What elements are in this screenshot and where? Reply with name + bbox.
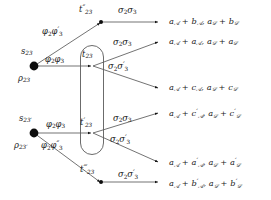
output-row-6: a𝒜 + b′𝒜, a𝒟 + b′𝒟 — [169, 178, 241, 189]
node-label-t23-double-prime: t″23 — [79, 4, 92, 15]
output-row-1: a𝒜 + b𝒜, a𝒟 + b𝒟 — [169, 17, 238, 27]
edge-label-phi2-phi3-bottom: φ2φ3 — [46, 120, 65, 130]
sigma-label-6: σ2σ′3 — [118, 169, 138, 180]
source-top-label-above: s23 — [21, 47, 33, 57]
output-row-4: a𝒜 + c′𝒜, a𝒟 + c′𝒟 — [169, 108, 240, 119]
sigma-label-5: σ2σ′3 — [110, 134, 130, 145]
source-bottom-label-above: s23′ — [19, 114, 32, 124]
sigma-label-4: σ2σ3 — [113, 114, 132, 124]
pill-group — [81, 46, 104, 155]
edge-label-phi2-phi3-prime: φ2φ′3 — [42, 26, 63, 37]
output-row-5: a𝒜 + a′𝒜, a𝒟 + a′𝒟 — [169, 157, 241, 168]
output-row-2: a𝒜 + a𝒜, a𝒟 + a𝒟 — [169, 37, 238, 47]
node-source-top — [30, 62, 39, 71]
sigma-label-3: σ2σ′3 — [108, 61, 128, 72]
node-label-t23-prime: t′23 — [80, 117, 92, 128]
diagram-canvas: s23 ρ23 s23′ ρ23′ t″23 t23 t′23 t‴23 φ2φ… — [0, 0, 271, 200]
node-t23-double-prime — [99, 20, 103, 24]
source-top-label-below: ρ23 — [18, 74, 30, 84]
edge-label-phi2-phi3: φ2φ3 — [45, 55, 64, 65]
node-t23-triple-prime — [99, 180, 103, 184]
sigma-label-1: σ2σ3 — [118, 6, 137, 16]
source-bottom-label-below: ρ23′ — [14, 141, 28, 151]
node-source-bottom — [30, 129, 39, 138]
node-label-t23-triple-prime: t‴23 — [80, 164, 94, 175]
edge-label-phi2-phi3-double-prime: φ2φ″3 — [41, 140, 63, 151]
output-row-3: a𝒜 + c𝒜, a𝒟 + c𝒟 — [169, 83, 237, 93]
node-label-t23: t23 — [82, 50, 93, 60]
sigma-label-2: σ2σ3 — [113, 38, 132, 48]
